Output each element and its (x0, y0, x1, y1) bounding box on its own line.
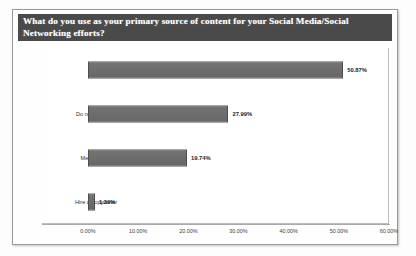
tick-label: 0.00% (80, 228, 95, 234)
tick-label: 30.00% (229, 228, 247, 234)
bar-row: I write it50.87% (42, 48, 389, 92)
bar-value-label: 1.39% (99, 199, 115, 205)
bar (88, 62, 343, 79)
tick-label: 40.00% (280, 228, 298, 234)
scanned-page: What do you use as your primary source o… (0, 0, 416, 256)
bar-row: Hire a copywriter1.39% (42, 180, 389, 224)
bar-value-label: 27.99% (232, 111, 252, 117)
value-axis-tick-labels: 0.00%10.00%20.00%30.00%40.00%50.00%60.00… (42, 228, 390, 240)
tick-label: 10.00% (129, 228, 147, 234)
bar-value-label: 19.74% (191, 155, 211, 161)
bar-row: Do not have one27.99% (42, 92, 389, 136)
bar (88, 106, 228, 123)
bar (88, 194, 95, 211)
bar (88, 150, 187, 167)
bar-value-label: 50.87% (347, 67, 367, 73)
chart-title-bar: What do you use as your primary source o… (18, 14, 392, 41)
chart-title: What do you use as your primary source o… (23, 16, 387, 39)
bar-row: Media sources19.74% (42, 136, 389, 180)
tick-label: 50.00% (330, 228, 348, 234)
chart-figure: What do you use as your primary source o… (12, 9, 398, 245)
tick-label: 60.00% (380, 228, 398, 234)
tick-label: 20.00% (179, 228, 197, 234)
value-axis-line (42, 224, 390, 225)
